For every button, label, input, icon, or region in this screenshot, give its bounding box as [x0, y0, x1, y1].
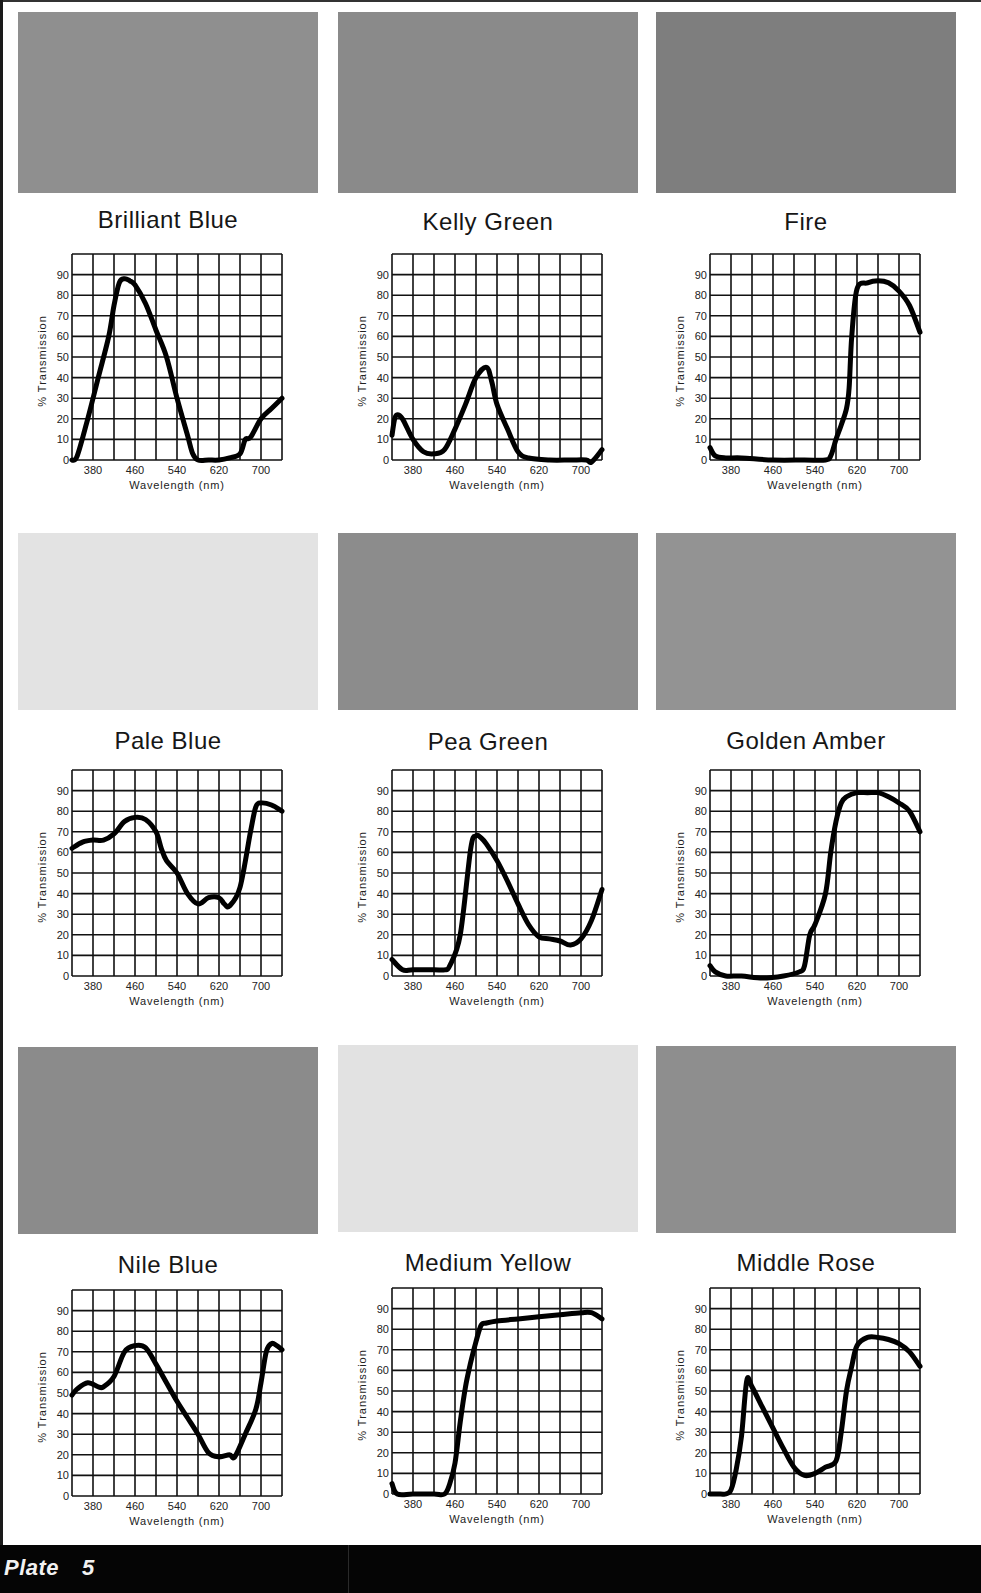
y-tick-label: 50: [57, 1387, 69, 1399]
x-tick-label: 380: [404, 1498, 422, 1510]
y-tick-label: 60: [695, 1364, 707, 1376]
x-axis-label: Wavelength (nm): [449, 995, 544, 1007]
y-tick-label: 10: [57, 949, 69, 961]
x-tick-label: 700: [572, 464, 590, 476]
x-axis-label: Wavelength (nm): [767, 1513, 862, 1525]
y-axis-label: % Transmission: [674, 1349, 686, 1441]
y-tick-label: 50: [695, 351, 707, 363]
x-axis-label: Wavelength (nm): [129, 1515, 224, 1527]
chart-svg: 0102030405060708090380460540620700% Tran…: [656, 1286, 956, 1526]
y-tick-label: 30: [57, 908, 69, 920]
x-tick-label: 460: [446, 980, 464, 992]
y-tick-label: 30: [695, 392, 707, 404]
chart-svg: 0102030405060708090380460540620700% Tran…: [338, 1286, 638, 1526]
y-tick-label: 80: [695, 1323, 707, 1335]
x-tick-label: 380: [84, 980, 102, 992]
y-tick-label: 30: [377, 908, 389, 920]
transmission-chart: 0102030405060708090380460540620700% Tran…: [338, 768, 638, 1008]
y-tick-label: 10: [377, 1467, 389, 1479]
transmission-chart: 0102030405060708090380460540620700% Tran…: [18, 1288, 318, 1528]
y-tick-label: 40: [695, 888, 707, 900]
x-tick-label: 620: [530, 980, 548, 992]
y-tick-label: 90: [57, 1305, 69, 1317]
y-tick-label: 80: [57, 805, 69, 817]
x-tick-label: 540: [488, 1498, 506, 1510]
y-axis-label: % Transmission: [356, 831, 368, 923]
y-tick-label: 90: [57, 785, 69, 797]
filter-title: Brilliant Blue: [18, 206, 318, 234]
y-tick-label: 10: [695, 433, 707, 445]
plate-number: 5: [82, 1555, 94, 1581]
y-tick-label: 70: [57, 310, 69, 322]
y-tick-label: 60: [377, 1364, 389, 1376]
x-axis-label: Wavelength (nm): [767, 995, 862, 1007]
filter-title: Pea Green: [338, 728, 638, 756]
chart-svg: 0102030405060708090380460540620700% Tran…: [656, 768, 956, 1008]
transmission-chart: 0102030405060708090380460540620700% Tran…: [338, 1286, 638, 1526]
chart-svg: 0102030405060708090380460540620700% Tran…: [18, 252, 318, 492]
y-tick-label: 70: [695, 826, 707, 838]
footer-divider: [348, 1545, 349, 1593]
chart-svg: 0102030405060708090380460540620700% Tran…: [656, 252, 956, 492]
y-tick-label: 50: [695, 1385, 707, 1397]
x-axis-label: Wavelength (nm): [767, 479, 862, 491]
y-tick-label: 0: [383, 454, 389, 466]
x-tick-label: 460: [126, 464, 144, 476]
x-tick-label: 460: [764, 980, 782, 992]
y-tick-label: 30: [377, 392, 389, 404]
y-tick-label: 0: [383, 970, 389, 982]
y-tick-label: 20: [695, 413, 707, 425]
y-tick-label: 70: [57, 1346, 69, 1358]
chart-grid: [710, 770, 920, 976]
y-tick-label: 20: [57, 929, 69, 941]
x-axis-label: Wavelength (nm): [129, 479, 224, 491]
x-tick-label: 620: [210, 1500, 228, 1512]
x-tick-label: 700: [572, 1498, 590, 1510]
chart-grid: [392, 254, 602, 460]
y-tick-label: 60: [695, 846, 707, 858]
y-tick-label: 60: [57, 330, 69, 342]
x-tick-label: 540: [806, 464, 824, 476]
x-tick-label: 460: [446, 1498, 464, 1510]
y-tick-label: 70: [695, 1344, 707, 1356]
x-tick-label: 620: [848, 1498, 866, 1510]
y-tick-label: 60: [377, 330, 389, 342]
y-tick-label: 50: [377, 867, 389, 879]
y-tick-label: 70: [695, 310, 707, 322]
y-tick-label: 70: [377, 1344, 389, 1356]
y-axis-label: % Transmission: [356, 315, 368, 407]
y-tick-label: 20: [377, 929, 389, 941]
y-tick-label: 80: [377, 1323, 389, 1335]
x-tick-label: 380: [84, 1500, 102, 1512]
x-axis-label: Wavelength (nm): [449, 479, 544, 491]
y-tick-label: 80: [377, 805, 389, 817]
filter-title: Golden Amber: [656, 727, 956, 755]
color-swatch: [18, 1047, 318, 1234]
x-axis-label: Wavelength (nm): [129, 995, 224, 1007]
y-tick-label: 50: [377, 351, 389, 363]
transmission-chart: 0102030405060708090380460540620700% Tran…: [18, 768, 318, 1008]
chart-svg: 0102030405060708090380460540620700% Tran…: [18, 768, 318, 1008]
y-tick-label: 40: [57, 1408, 69, 1420]
y-tick-label: 90: [695, 785, 707, 797]
x-tick-label: 700: [890, 1498, 908, 1510]
y-tick-label: 80: [695, 289, 707, 301]
y-tick-label: 60: [57, 846, 69, 858]
y-tick-label: 50: [377, 1385, 389, 1397]
filter-title: Fire: [656, 208, 956, 236]
x-tick-label: 540: [806, 1498, 824, 1510]
color-swatch: [656, 12, 956, 193]
color-swatch: [656, 533, 956, 710]
x-tick-label: 540: [168, 464, 186, 476]
y-tick-label: 80: [377, 289, 389, 301]
transmission-chart: 0102030405060708090380460540620700% Tran…: [656, 252, 956, 492]
chart-svg: 0102030405060708090380460540620700% Tran…: [338, 252, 638, 492]
y-tick-label: 40: [377, 888, 389, 900]
y-tick-label: 0: [701, 1488, 707, 1500]
y-tick-label: 0: [63, 454, 69, 466]
y-axis-label: % Transmission: [356, 1349, 368, 1441]
y-tick-label: 70: [377, 826, 389, 838]
y-tick-label: 30: [377, 1426, 389, 1438]
x-tick-label: 620: [848, 464, 866, 476]
color-swatch: [18, 533, 318, 710]
